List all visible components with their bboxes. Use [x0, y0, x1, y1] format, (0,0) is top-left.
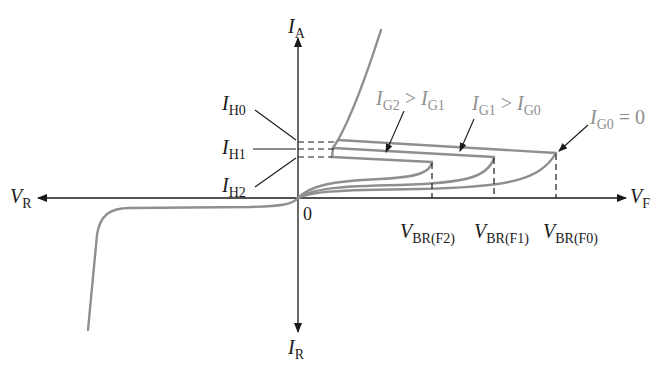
label-ig0-eq-0: IG0 = 0	[589, 106, 645, 132]
holding-leaders	[253, 110, 296, 187]
scr-characteristic-diagram: IA IR VF VR 0 IH0 IH1 IH2 VBR(F2) VBR(F1…	[0, 0, 656, 365]
label-ia: IA	[287, 15, 306, 41]
on-state-curve	[332, 30, 381, 157]
return-line-ig1	[333, 148, 494, 157]
label-vf: VF	[630, 185, 650, 211]
axes	[38, 38, 626, 332]
label-ig2-gt-ig1: IG2 > IG1	[375, 87, 445, 113]
label-vbr-f1: VBR(F1)	[474, 220, 529, 247]
breakover-lines	[432, 154, 556, 198]
forward-blocking-ig0	[298, 153, 556, 198]
return-line-ig2	[332, 157, 432, 162]
label-vbr-f2: VBR(F2)	[400, 220, 455, 247]
label-ig1-gt-ig0: IG1 > IG0	[471, 92, 541, 118]
label-origin: 0	[303, 204, 312, 224]
label-ih0: IH0	[221, 92, 246, 118]
label-ih1: IH1	[221, 136, 246, 162]
characteristic-curves	[88, 30, 556, 330]
label-vr: VR	[10, 185, 32, 211]
label-ir: IR	[287, 336, 305, 362]
reverse-curve	[88, 198, 298, 330]
label-vbr-f0: VBR(F0)	[543, 220, 598, 247]
label-ih2: IH2	[221, 174, 246, 200]
